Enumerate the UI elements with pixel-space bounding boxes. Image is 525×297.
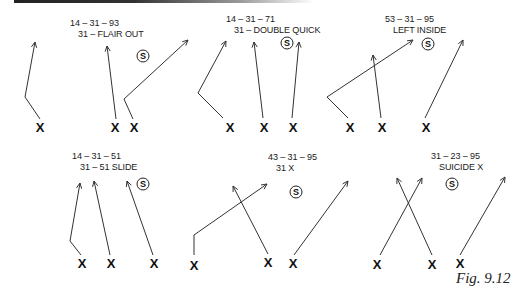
- player-x-marker: X: [289, 121, 298, 134]
- play-label-double-quick: 14 – 31 – 7131 – DOUBLE QUICK: [226, 14, 320, 36]
- player-x-marker: X: [78, 257, 87, 270]
- play-name: LEFT INSIDE: [385, 25, 446, 36]
- routes-31-x: [194, 181, 348, 255]
- play-name: 31 X: [268, 163, 317, 174]
- play-code: 53 – 31 – 95: [385, 14, 446, 25]
- player-x-marker: X: [111, 121, 120, 134]
- player-x-marker: X: [428, 258, 437, 271]
- safety-circle-icon: S: [446, 178, 459, 191]
- route-line: [380, 178, 422, 255]
- player-x-marker: X: [226, 121, 235, 134]
- play-name: 31 – 51 SLIDE: [72, 162, 137, 173]
- routes-canvas: [0, 0, 525, 297]
- safety-circle-icon: S: [137, 178, 150, 191]
- figure-caption: Fig. 9.12: [456, 270, 511, 287]
- route-line: [198, 41, 226, 118]
- play-name: 31 – DOUBLE QUICK: [226, 25, 320, 36]
- route-line: [124, 40, 188, 119]
- play-code: 14 – 31 – 93: [70, 18, 144, 29]
- routes-slide: [70, 181, 153, 255]
- play-code: 14 – 31 – 71: [226, 14, 320, 25]
- play-label-left-inside: 53 – 31 – 95LEFT INSIDE: [385, 14, 446, 36]
- player-x-marker: X: [378, 121, 387, 134]
- route-line: [327, 40, 413, 118]
- route-line: [70, 183, 81, 255]
- route-line: [107, 46, 116, 119]
- player-x-marker: X: [264, 256, 273, 269]
- route-line: [425, 40, 463, 118]
- routes-suicide-x: [380, 177, 505, 255]
- player-x-marker: X: [289, 257, 298, 270]
- route-line: [292, 42, 299, 118]
- player-x-marker: X: [373, 258, 382, 271]
- play-name: 31 – FLAIR OUT: [70, 29, 144, 40]
- safety-circle-icon: S: [137, 50, 150, 63]
- safety-circle-icon: S: [281, 37, 294, 50]
- player-x-marker: X: [422, 121, 431, 134]
- player-x-marker: X: [260, 121, 269, 134]
- arrowhead-icon: [407, 40, 413, 45]
- safety-circle-icon: S: [290, 186, 303, 199]
- routes-left-inside: [327, 40, 463, 118]
- play-label-31-x: 43 – 31 – 9531 X: [268, 152, 317, 174]
- routes-flair-out: [25, 40, 188, 119]
- play-code: 43 – 31 – 95: [268, 152, 317, 163]
- player-x-marker: X: [107, 257, 116, 270]
- player-x-marker: X: [36, 121, 45, 134]
- player-x-marker: X: [456, 257, 465, 270]
- routes-double-quick: [198, 41, 301, 118]
- route-line: [460, 177, 505, 255]
- play-code: 14 – 31 – 51: [72, 151, 137, 162]
- route-line: [127, 181, 153, 255]
- play-label-flair-out: 14 – 31 – 9331 – FLAIR OUT: [70, 18, 144, 40]
- player-x-marker: X: [346, 121, 355, 134]
- player-x-marker: X: [150, 257, 159, 270]
- play-label-slide: 14 – 31 – 5131 – 51 SLIDE: [72, 151, 137, 173]
- player-x-marker: X: [190, 259, 199, 272]
- route-line: [194, 184, 267, 255]
- route-line: [94, 181, 110, 255]
- play-label-suicide-x: 31 – 23 – 95SUICIDE X: [431, 151, 483, 173]
- player-x-marker: X: [130, 121, 139, 134]
- safety-circle-icon: S: [422, 38, 435, 51]
- route-line: [254, 42, 263, 118]
- play-code: 31 – 23 – 95: [431, 151, 483, 162]
- route-line: [233, 186, 268, 254]
- route-line: [397, 178, 432, 255]
- play-name: SUICIDE X: [431, 162, 483, 173]
- route-line: [25, 42, 40, 119]
